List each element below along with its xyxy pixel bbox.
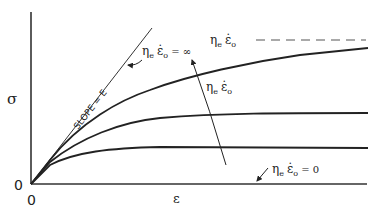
x-origin-label: 0 xyxy=(27,192,36,208)
x-axis-label: ε xyxy=(173,191,180,206)
y-origin-label: 0 xyxy=(14,177,23,193)
svg-text:ηeε̇o = ∞: ηeε̇o = ∞ xyxy=(142,44,191,60)
increasing-rate-arrow xyxy=(192,60,226,165)
arrow-to-slope-line xyxy=(128,60,142,65)
stress-strain-diagram: σ 0 0 ε SLOPE = E ηeε̇o = ∞ ηeε̇o ηeε̇o … xyxy=(0,0,377,213)
label-rate-zero: ηeε̇o = 0 xyxy=(272,162,319,178)
arrow-to-x-axis xyxy=(257,168,268,181)
slope-label: SLOPE = E xyxy=(72,87,109,131)
svg-text:ηeε̇o: ηeε̇o xyxy=(206,80,232,96)
label-increasing-rate: ηeε̇o xyxy=(206,80,232,96)
svg-text:ηeε̇o = 0: ηeε̇o = 0 xyxy=(272,162,319,178)
svg-text:ηeε̇o: ηeε̇o xyxy=(210,33,236,49)
label-asymptote: ηeε̇o xyxy=(210,33,236,49)
label-rate-infinite: ηeε̇o = ∞ xyxy=(142,44,191,60)
y-axis-label: σ xyxy=(7,90,17,108)
